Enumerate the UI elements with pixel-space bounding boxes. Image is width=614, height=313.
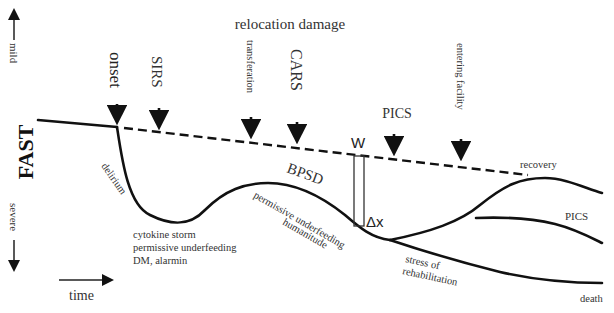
baseline-solid — [38, 120, 117, 127]
fast-trajectory-diagram: FAST mild severe time relocation damage … — [0, 0, 614, 313]
event-entering-facility-label: entering facility — [455, 43, 466, 111]
event-cars-label: CARS — [288, 49, 305, 91]
x-axis-label: time — [69, 288, 94, 303]
expected-trajectory-dashed — [124, 128, 528, 175]
death-label: death — [580, 293, 603, 304]
cytokine-annotation: cytokine storm permissive underfeeding D… — [133, 229, 237, 266]
cytokine-line-3: DM, alarmin — [133, 255, 188, 266]
event-onset-label: onset — [106, 52, 125, 88]
event-sirs-label: SIRS — [149, 56, 165, 88]
cytokine-line-1: cytokine storm — [133, 229, 196, 240]
event-pics-label: PICS — [382, 106, 412, 121]
pics-outcome-label: PICS — [565, 210, 588, 222]
event-transferation-label: transferation — [245, 40, 256, 94]
permissive-line-1: permissive underfeeding — [252, 189, 348, 251]
recovery-label: recovery — [520, 159, 557, 170]
severe-label: severe — [8, 203, 20, 231]
w-label: W — [351, 134, 366, 151]
y-axis-label: FAST — [13, 124, 38, 179]
permissive-annotation: permissive underfeeding humanitude — [252, 189, 348, 251]
cytokine-line-2: permissive underfeeding — [133, 242, 237, 253]
w-delta-x-bracket — [354, 156, 364, 226]
delta-x-label: Δx — [366, 213, 384, 230]
relocation-damage-title: relocation damage — [235, 16, 346, 32]
mild-label: mild — [8, 43, 20, 64]
recovery-curve — [390, 178, 602, 240]
bpsd-label: BPSD — [285, 160, 326, 188]
